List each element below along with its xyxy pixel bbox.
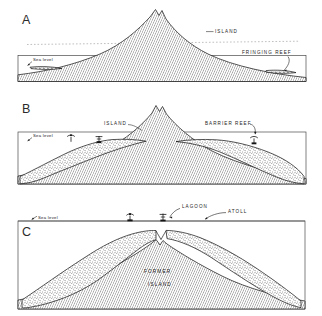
panel-c-former-island-label-line2: ISLAND xyxy=(148,282,172,287)
panel-a-fringing-reef-label: FRINGING REEF xyxy=(242,50,292,55)
panel-b-barrier-reef-label: BARRIER REEF xyxy=(205,121,252,126)
panel-c-former-island-label-line1: FORMER xyxy=(144,269,171,274)
panel-b-sea-level-label: Sea level xyxy=(33,133,53,138)
figure-canvas: A Sea level ISLAND FRINGING REEF B xyxy=(0,0,322,316)
panel-a-letter: A xyxy=(22,13,31,27)
panel-c-atoll-label: ATOLL xyxy=(228,209,247,214)
panel-c-lagoon-label: LAGOON xyxy=(182,204,208,209)
panel-b-letter: B xyxy=(22,102,31,116)
panel-c-letter: C xyxy=(22,225,32,239)
panel-c-sea-level-label: Sea level xyxy=(38,215,58,220)
panel-b-island-label: ISLAND xyxy=(104,121,127,126)
reef-formation-diagram: A Sea level ISLAND FRINGING REEF B xyxy=(0,0,322,316)
panel-a-sea-level-label: Sea level xyxy=(33,57,53,62)
panel-a-island-label: ISLAND xyxy=(215,29,238,34)
